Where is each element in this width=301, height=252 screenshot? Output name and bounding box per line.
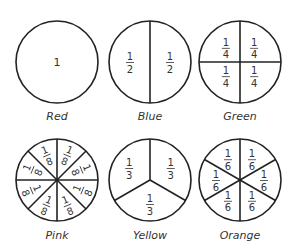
svg-text:6: 6 [213,182,219,193]
circle-blue: 1212 [109,21,191,103]
circle-orange: 161616161616 [199,139,281,221]
svg-text:3: 3 [168,170,174,181]
svg-text:4: 4 [223,78,229,89]
svg-text:8: 8 [65,205,75,218]
fraction-circles-diagram: 1121214141414181818181818181813131316161… [0,0,301,252]
svg-text:8: 8 [39,205,49,218]
svg-text:1: 1 [60,194,70,207]
svg-text:1: 1 [147,193,153,204]
fraction-label: 14 [250,65,258,89]
fraction-label: 12 [166,51,174,75]
fraction-label: 16 [212,169,220,193]
svg-text:1: 1 [223,65,229,76]
svg-text:1: 1 [225,148,231,159]
svg-text:1: 1 [21,163,34,173]
circle-yellow: 131313 [109,139,191,221]
label-red: Red [12,110,102,123]
fraction-label: 13 [167,157,175,181]
svg-text:2: 2 [167,64,173,75]
svg-text:1: 1 [81,163,94,173]
svg-text:8: 8 [19,188,32,198]
svg-text:8: 8 [44,155,54,168]
fraction-label: 12 [126,51,134,75]
label-green: Green [195,110,285,123]
label-blue: Blue [105,110,195,123]
circle-pink: 1818181818181818 [16,139,98,221]
svg-text:1: 1 [64,144,74,157]
svg-text:8: 8 [69,167,82,177]
circle-red: 1 [16,21,98,103]
svg-text:6: 6 [261,182,267,193]
fraction-label: 13 [125,157,133,181]
fraction-label: 14 [222,65,230,89]
svg-text:8: 8 [32,167,45,177]
svg-text:4: 4 [251,78,257,89]
fraction-label: 16 [248,148,256,172]
svg-text:1: 1 [54,56,61,69]
svg-text:3: 3 [126,170,132,181]
svg-text:1: 1 [251,65,257,76]
fraction-label: 13 [146,193,154,217]
circle-green: 14141414 [199,21,281,103]
svg-text:1: 1 [249,190,255,201]
svg-text:1: 1 [31,183,44,193]
fraction-label: 16 [248,190,256,214]
svg-text:1: 1 [126,157,132,168]
fraction-label: 14 [222,37,230,61]
svg-text:6: 6 [225,202,231,213]
svg-text:1: 1 [40,144,50,157]
svg-text:1: 1 [225,190,231,201]
label-yellow: Yellow [105,229,195,242]
fraction-label: 16 [224,190,232,214]
svg-text:6: 6 [225,161,231,172]
svg-text:1: 1 [261,169,267,180]
label-orange: Orange [195,229,285,242]
svg-text:1: 1 [223,37,229,48]
svg-text:4: 4 [223,49,229,60]
svg-text:1: 1 [249,148,255,159]
svg-text:3: 3 [147,206,153,217]
svg-text:4: 4 [251,49,257,60]
svg-text:6: 6 [249,161,255,172]
svg-text:1: 1 [213,169,219,180]
svg-text:2: 2 [127,64,133,75]
svg-text:1: 1 [44,194,54,207]
fraction-label: 16 [224,148,232,172]
svg-text:6: 6 [249,202,255,213]
svg-text:1: 1 [168,157,174,168]
fraction-label: 14 [250,37,258,61]
svg-text:1: 1 [167,51,173,62]
fraction-label: 16 [260,169,268,193]
label-pink: Pink [12,229,102,242]
svg-text:8: 8 [82,188,95,198]
svg-text:1: 1 [71,183,84,193]
svg-text:1: 1 [251,37,257,48]
svg-text:8: 8 [60,155,70,168]
svg-text:1: 1 [127,51,133,62]
